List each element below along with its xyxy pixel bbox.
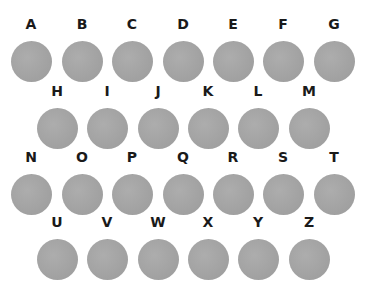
letter-label: U	[35, 214, 79, 230]
letter-label: T	[312, 149, 356, 165]
letter-label: H	[35, 83, 79, 99]
circle-target[interactable]	[11, 174, 52, 215]
letter-label: C	[110, 16, 154, 32]
letter-label: I	[85, 83, 129, 99]
letter-cell-b[interactable]: B	[60, 16, 104, 82]
letter-label: J	[136, 83, 180, 99]
letter-cell-k[interactable]: K	[186, 83, 230, 149]
letter-cell-s[interactable]: S	[261, 149, 305, 215]
letter-label: G	[312, 16, 356, 32]
letter-label: V	[85, 214, 129, 230]
circle-target[interactable]	[138, 239, 179, 280]
letter-cell-a[interactable]: A	[9, 16, 53, 82]
circle-target[interactable]	[314, 174, 355, 215]
letter-cell-d[interactable]: D	[161, 16, 205, 82]
circle-target[interactable]	[62, 174, 103, 215]
circle-target[interactable]	[163, 41, 204, 82]
letter-cell-p[interactable]: P	[110, 149, 154, 215]
letter-cell-c[interactable]: C	[110, 16, 154, 82]
circle-target[interactable]	[188, 239, 229, 280]
letter-label: F	[261, 16, 305, 32]
circle-target[interactable]	[213, 174, 254, 215]
letter-cell-r[interactable]: R	[211, 149, 255, 215]
circle-target[interactable]	[37, 239, 78, 280]
letter-label: K	[186, 83, 230, 99]
letter-cell-y[interactable]: Y	[236, 214, 280, 280]
circle-target[interactable]	[62, 41, 103, 82]
circle-target[interactable]	[263, 174, 304, 215]
letter-label: Y	[236, 214, 280, 230]
circle-target[interactable]	[263, 41, 304, 82]
letter-label: B	[60, 16, 104, 32]
circle-target[interactable]	[11, 41, 52, 82]
circle-target[interactable]	[188, 108, 229, 149]
circle-target[interactable]	[289, 239, 330, 280]
letter-cell-w[interactable]: W	[136, 214, 180, 280]
letter-label: A	[9, 16, 53, 32]
circle-target[interactable]	[112, 41, 153, 82]
letter-cell-z[interactable]: Z	[287, 214, 331, 280]
letter-label: Q	[161, 149, 205, 165]
letter-label: S	[261, 149, 305, 165]
circle-target[interactable]	[314, 41, 355, 82]
letter-label: Z	[287, 214, 331, 230]
letter-cell-o[interactable]: O	[60, 149, 104, 215]
letter-label: E	[211, 16, 255, 32]
letter-cell-g[interactable]: G	[312, 16, 356, 82]
circle-target[interactable]	[37, 108, 78, 149]
letter-label: N	[9, 149, 53, 165]
letter-cell-q[interactable]: Q	[161, 149, 205, 215]
letter-label: M	[287, 83, 331, 99]
letter-label: W	[136, 214, 180, 230]
letter-cell-f[interactable]: F	[261, 16, 305, 82]
letter-cell-e[interactable]: E	[211, 16, 255, 82]
letter-cell-h[interactable]: H	[35, 83, 79, 149]
circle-target[interactable]	[238, 239, 279, 280]
letter-cell-n[interactable]: N	[9, 149, 53, 215]
letter-cell-v[interactable]: V	[85, 214, 129, 280]
letter-label: X	[186, 214, 230, 230]
circle-target[interactable]	[87, 108, 128, 149]
letter-label: O	[60, 149, 104, 165]
letter-cell-x[interactable]: X	[186, 214, 230, 280]
letter-cell-t[interactable]: T	[312, 149, 356, 215]
circle-target[interactable]	[87, 239, 128, 280]
letter-cell-j[interactable]: J	[136, 83, 180, 149]
letter-cell-u[interactable]: U	[35, 214, 79, 280]
letter-label: L	[236, 83, 280, 99]
circle-target[interactable]	[163, 174, 204, 215]
circle-target[interactable]	[238, 108, 279, 149]
letter-cell-l[interactable]: L	[236, 83, 280, 149]
circle-target[interactable]	[112, 174, 153, 215]
letter-label: P	[110, 149, 154, 165]
letter-label: D	[161, 16, 205, 32]
letter-cell-m[interactable]: M	[287, 83, 331, 149]
circle-target[interactable]	[289, 108, 330, 149]
letter-cell-i[interactable]: I	[85, 83, 129, 149]
circle-target[interactable]	[213, 41, 254, 82]
letter-label: R	[211, 149, 255, 165]
circle-target[interactable]	[138, 108, 179, 149]
